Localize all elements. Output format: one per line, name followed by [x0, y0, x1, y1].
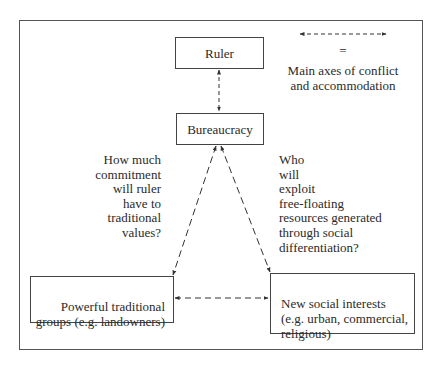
node-ruler: Ruler — [175, 37, 264, 69]
legend-meaning: Main axes of conflict and accommodation — [283, 63, 403, 93]
question-left: How much commitment will ruler have to t… — [70, 153, 161, 241]
question-right: Who will exploit free-floating resources… — [279, 153, 419, 255]
node-bureaucracy-label: Bureaucracy — [187, 122, 253, 137]
node-bureaucracy: Bureaucracy — [176, 113, 264, 145]
edge-bureaucracy-traditional — [173, 146, 216, 275]
node-traditional-groups-label: Powerful traditional groups (e.g. landow… — [36, 299, 165, 329]
node-ruler-label: Ruler — [205, 46, 234, 61]
node-traditional-groups: Powerful traditional groups (e.g. landow… — [30, 276, 174, 323]
legend-equals: = — [333, 43, 353, 58]
edge-bureaucracy-new-interests — [221, 146, 270, 272]
node-new-interests: New social interests (e.g. urban, commer… — [270, 273, 415, 334]
